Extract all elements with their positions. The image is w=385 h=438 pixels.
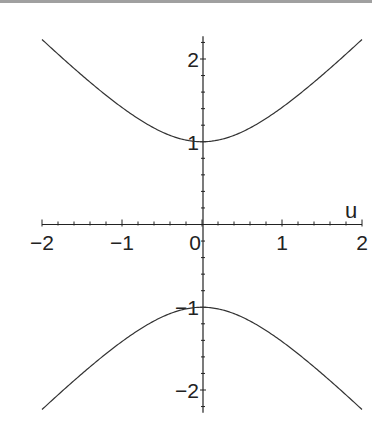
y-tick-label: 1	[187, 131, 199, 154]
axes: −2−1012−2−112 u	[30, 36, 368, 413]
x-tick-label: −2	[30, 231, 54, 254]
upper-branch-curve	[42, 39, 362, 141]
x-tick-label: 1	[276, 231, 288, 254]
x-tick-label: −1	[110, 231, 134, 254]
x-tick-label: 2	[356, 231, 368, 254]
x-tick-label: 0	[189, 231, 201, 254]
y-tick-label: −2	[175, 379, 199, 402]
axis-ticks	[42, 42, 362, 406]
hyperbola-plot: −2−1012−2−112 u	[0, 0, 385, 438]
y-tick-label: 2	[187, 48, 199, 71]
x-axis-label: u	[345, 198, 357, 223]
lower-branch-curve	[42, 307, 362, 409]
